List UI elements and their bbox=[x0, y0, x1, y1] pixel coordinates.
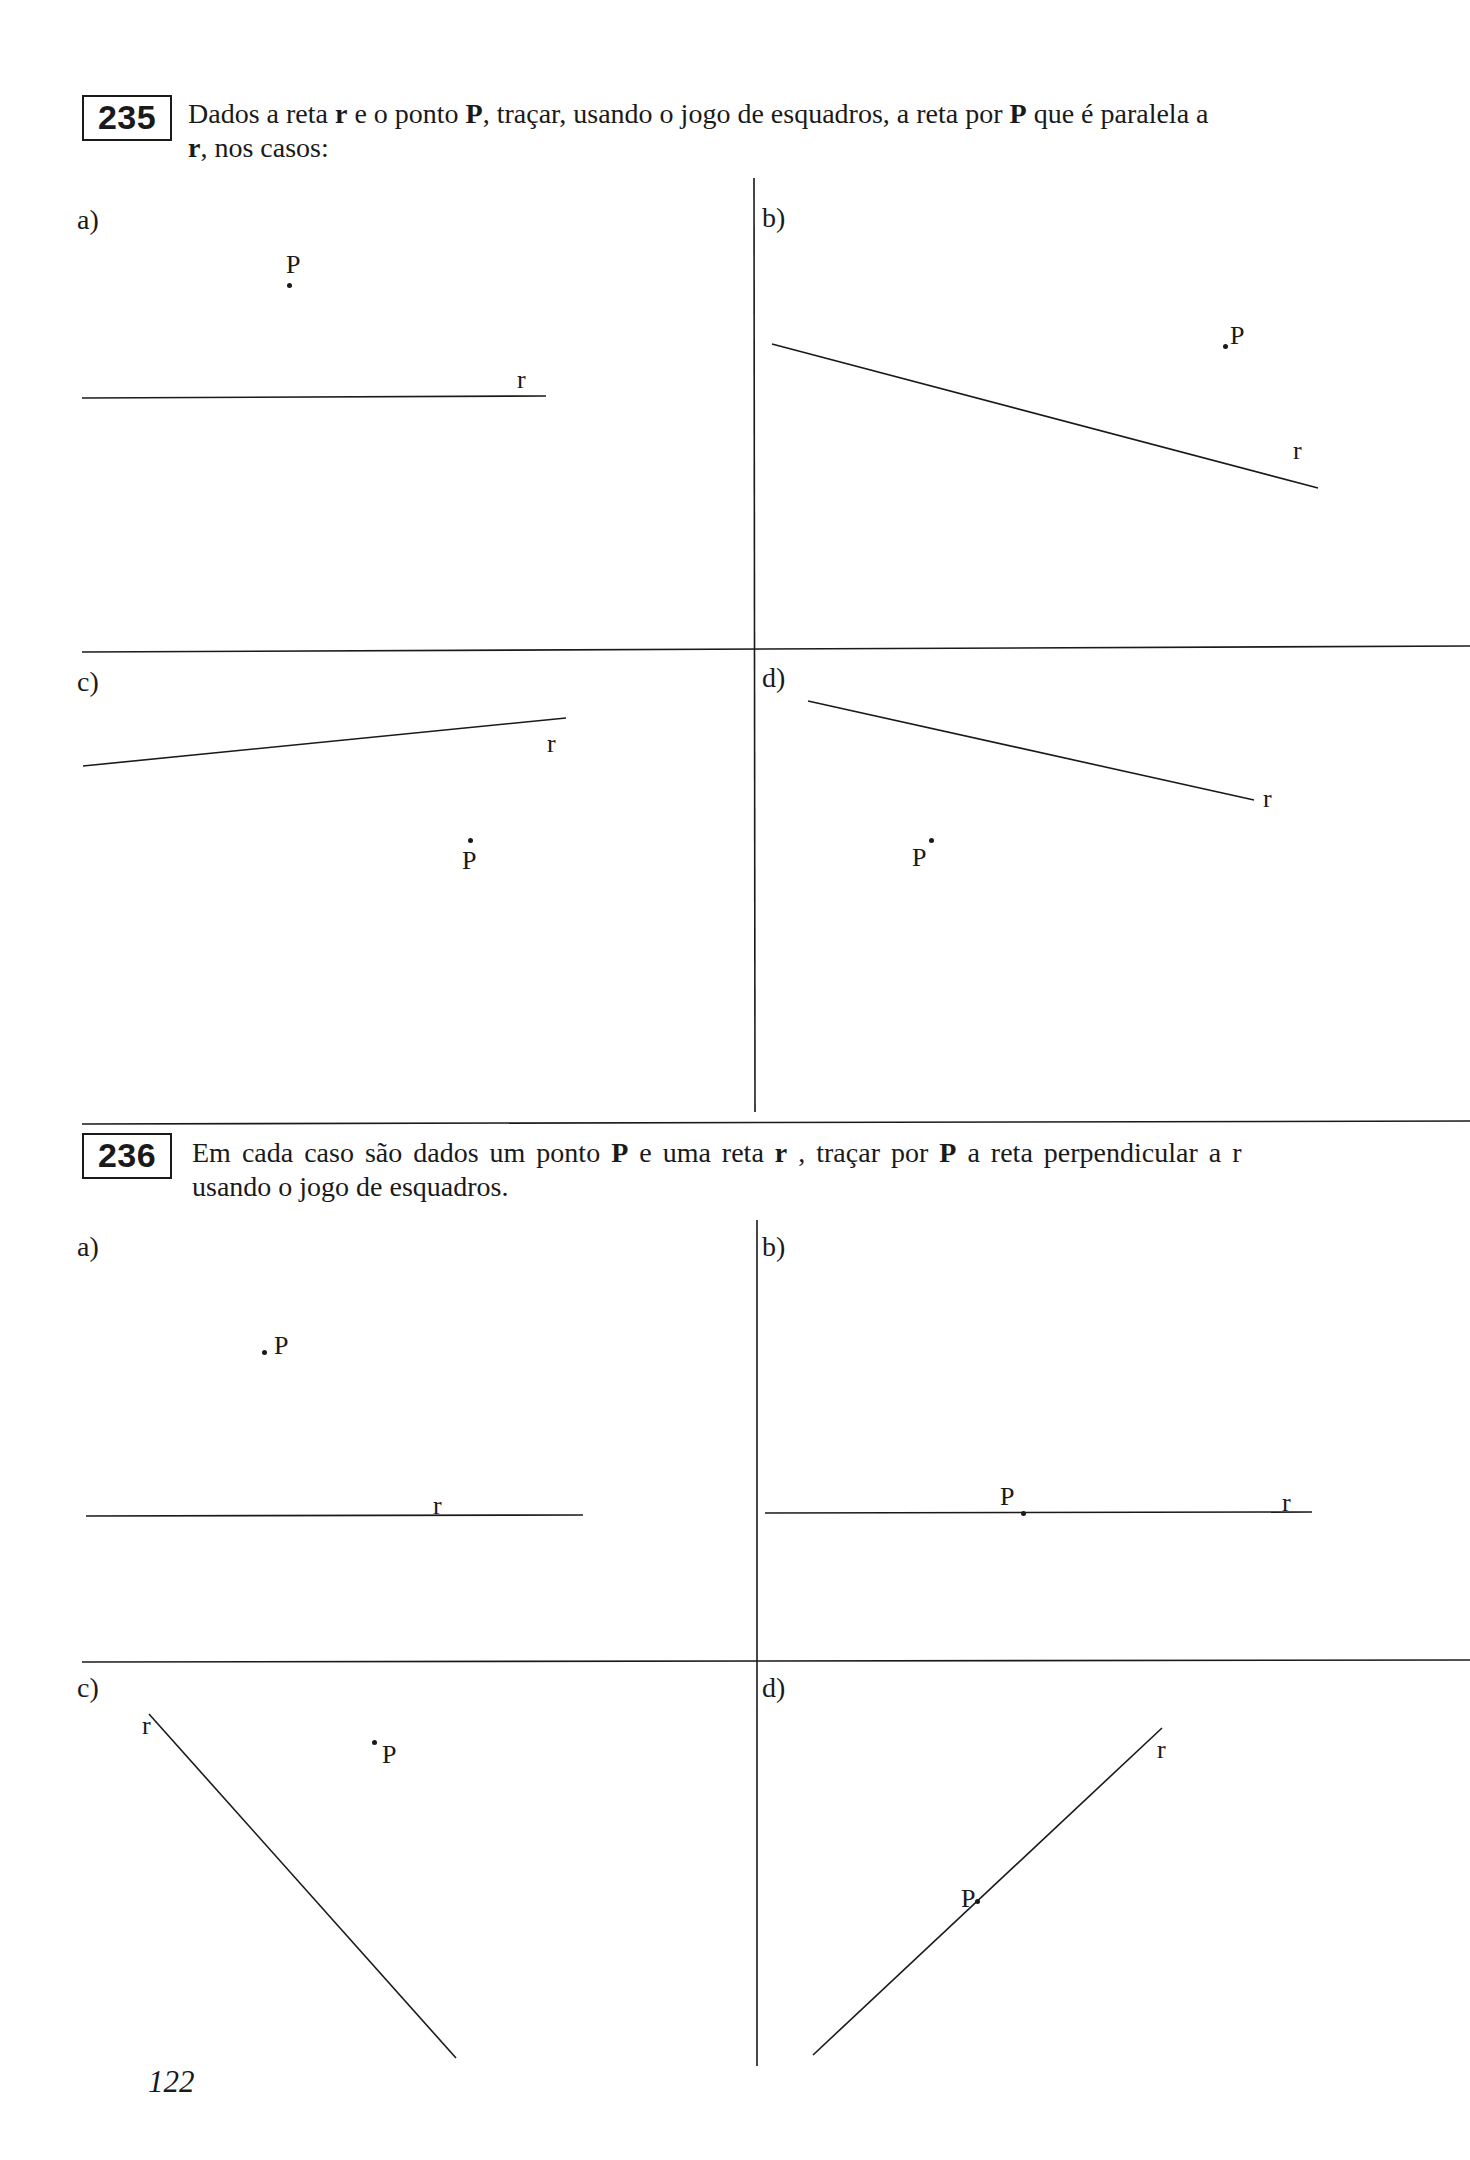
point-label: P bbox=[382, 1742, 396, 1768]
text: usando o jogo de esquadros. bbox=[192, 1171, 509, 1202]
bold-p: P bbox=[1010, 98, 1027, 129]
case-label-a: a) bbox=[77, 1232, 99, 1262]
text: que é paralela a bbox=[1027, 98, 1209, 129]
point-label: P bbox=[286, 252, 300, 278]
case-label-a: a) bbox=[77, 205, 99, 235]
point-label: P bbox=[912, 845, 926, 871]
point-p-marker bbox=[929, 838, 934, 843]
text: , traçar, usando o jogo de esquadros, a … bbox=[483, 98, 1010, 129]
text: , traçar por bbox=[787, 1137, 939, 1168]
ex235a-line-r bbox=[82, 396, 546, 398]
ex236b-line-r bbox=[765, 1512, 1312, 1513]
exercise-statement-line2: usando o jogo de esquadros. bbox=[192, 1170, 509, 1204]
point-p-marker bbox=[262, 1350, 267, 1355]
exercise-separator bbox=[82, 1121, 1470, 1124]
ex236-horizontal-divider bbox=[82, 1660, 1470, 1662]
exercise-number-box: 235 bbox=[82, 95, 172, 141]
bold-p: P bbox=[611, 1137, 628, 1168]
case-label-c: c) bbox=[77, 667, 99, 697]
point-label: P bbox=[462, 848, 476, 874]
line-label: r bbox=[1157, 1737, 1166, 1763]
bold-r: r bbox=[335, 98, 347, 129]
text: e o ponto bbox=[347, 98, 465, 129]
point-label: P bbox=[274, 1333, 288, 1359]
line-label: r bbox=[1282, 1490, 1291, 1516]
point-p-marker bbox=[1021, 1511, 1026, 1516]
point-p-marker bbox=[975, 1899, 980, 1904]
line-label: r bbox=[1263, 786, 1272, 812]
ex235c-line-r bbox=[83, 718, 566, 766]
text: e uma reta bbox=[628, 1137, 775, 1168]
exercise-statement-line1: Em cada caso são dados um ponto P e uma … bbox=[192, 1136, 1241, 1170]
point-label: P bbox=[1000, 1484, 1014, 1510]
ex236a-line-r bbox=[86, 1515, 583, 1516]
point-label: P bbox=[961, 1886, 975, 1912]
text: Dados a reta bbox=[188, 98, 335, 129]
ex235d-line-r bbox=[808, 701, 1254, 800]
line-label: r bbox=[517, 367, 526, 393]
point-p-marker bbox=[468, 838, 473, 843]
bold-p: P bbox=[466, 98, 483, 129]
ex235b-line-r bbox=[772, 344, 1318, 488]
bold-p: P bbox=[939, 1137, 956, 1168]
ex236d-line-r bbox=[813, 1728, 1162, 2055]
line-label: r bbox=[433, 1493, 442, 1519]
line-label: r bbox=[1293, 438, 1302, 464]
line-label: r bbox=[547, 731, 556, 757]
point-p-marker bbox=[1223, 344, 1228, 349]
case-label-b: b) bbox=[762, 1232, 785, 1262]
line-label: r bbox=[142, 1713, 151, 1739]
text: a reta perpendicular a r bbox=[956, 1137, 1241, 1168]
text: , nos casos: bbox=[200, 132, 328, 163]
point-p-marker bbox=[372, 1740, 377, 1745]
exercise-statement-line2: r, nos casos: bbox=[188, 131, 329, 165]
page-number: 122 bbox=[148, 2064, 195, 2100]
exercise-number-box: 236 bbox=[82, 1133, 172, 1179]
case-label-d: d) bbox=[762, 663, 785, 693]
point-p-marker bbox=[287, 283, 292, 288]
exercise-statement-line1: Dados a reta r e o ponto P, traçar, usan… bbox=[188, 97, 1209, 131]
case-label-b: b) bbox=[762, 203, 785, 233]
case-label-d: d) bbox=[762, 1673, 785, 1703]
exercise-number: 235 bbox=[98, 98, 156, 136]
ex236c-line-r bbox=[149, 1714, 456, 2058]
point-label: P bbox=[1230, 323, 1244, 349]
figure-canvas bbox=[0, 0, 1470, 2160]
case-label-c: c) bbox=[77, 1673, 99, 1703]
exercise-number: 236 bbox=[98, 1136, 156, 1174]
ex235-horizontal-divider bbox=[82, 646, 1470, 652]
text: Em cada caso são dados um ponto bbox=[192, 1137, 611, 1168]
bold-r: r bbox=[775, 1137, 787, 1168]
bold-r: r bbox=[188, 132, 200, 163]
ex235-vertical-divider bbox=[754, 178, 755, 1112]
